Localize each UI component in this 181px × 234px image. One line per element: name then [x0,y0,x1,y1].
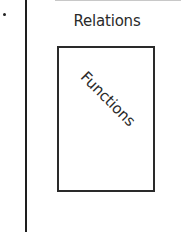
divider-line [25,0,27,232]
relations-label: Relations [58,12,156,30]
functions-set-box: Functions [57,46,155,192]
functions-label-container: Functions [59,48,153,190]
bullet-point [3,13,6,16]
functions-label: Functions [77,68,139,130]
top-border-line [55,0,181,1]
